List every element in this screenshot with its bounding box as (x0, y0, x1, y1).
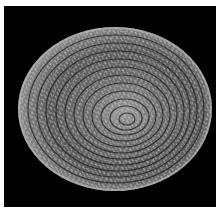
photo-frame: Woven coiled basket viewed from above on… (4, 6, 216, 207)
woven-basket-image (17, 24, 214, 194)
